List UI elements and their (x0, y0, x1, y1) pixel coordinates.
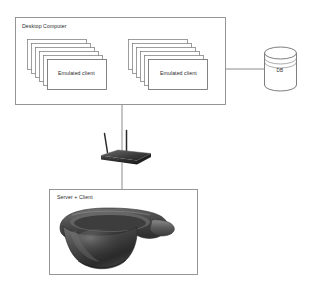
diagram-canvas (0, 0, 311, 292)
desktop-computer-label: Desktop Computer (22, 24, 67, 29)
wireless-router-icon (101, 131, 151, 165)
database-label: DB (277, 69, 284, 74)
emulated-client-label-left: Emulated client (58, 71, 95, 76)
emulated-client-label-right: Emulated client (160, 71, 197, 76)
server-client-label: Server + Client (57, 195, 93, 200)
architecture-diagram: Desktop Computer Emulated client Emulate… (0, 0, 311, 292)
